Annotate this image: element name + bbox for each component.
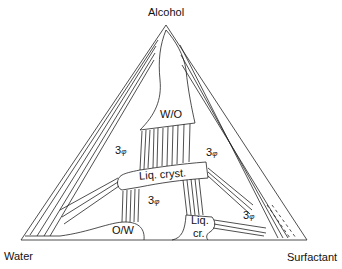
region-label-3phase-left: 3φ [115,144,126,156]
region-label-3phase-right: 3φ [206,146,217,158]
region-label-wo: W/O [160,108,182,120]
phase-diagram-canvas [0,0,342,269]
region-label-liq-cr-2: cr. [193,227,205,239]
vertex-label-alcohol: Alcohol [148,6,184,18]
region-label-3phase-lower-right: 3φ [243,209,254,221]
vertex-label-water: Water [4,250,33,262]
region-label-ow: O/W [112,224,134,236]
vertex-label-surfactant: Surfactant [287,251,337,263]
region-label-liq-cr-1: Liq. [191,214,209,226]
region-label-3phase-center: 3φ [148,194,159,206]
